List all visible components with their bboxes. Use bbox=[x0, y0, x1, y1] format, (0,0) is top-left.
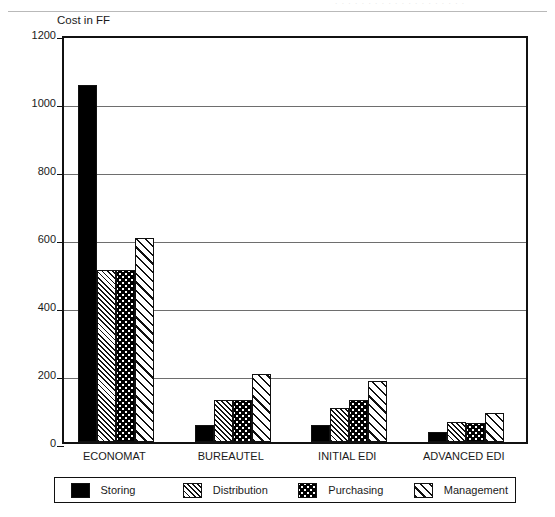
y-axis-tick-label: 0 bbox=[50, 437, 56, 449]
plot-area bbox=[62, 36, 528, 444]
legend-label: Management bbox=[444, 484, 508, 496]
bar-purchasing-bureautel bbox=[233, 400, 252, 443]
y-axis-tick-label: 600 bbox=[38, 233, 56, 245]
legend-label: Purchasing bbox=[328, 484, 383, 496]
bar-distribution-initial-edi bbox=[330, 408, 349, 442]
legend-swatch-management-icon bbox=[414, 483, 433, 498]
y-axis-tick-label: 1000 bbox=[32, 97, 56, 109]
y-axis-tick-label: 1200 bbox=[32, 29, 56, 41]
bar-distribution-economat bbox=[97, 270, 116, 442]
legend-swatch-distribution-icon bbox=[183, 483, 202, 498]
y-axis-tick bbox=[57, 446, 64, 447]
bar-chart: · · · · · · · · · · · · · · · · · · · · … bbox=[0, 0, 555, 517]
y-axis-tick bbox=[57, 174, 64, 175]
bar-distribution-bureautel bbox=[214, 400, 233, 443]
y-axis-tick-label: 200 bbox=[38, 369, 56, 381]
legend-item-purchasing[interactable]: Purchasing bbox=[298, 478, 383, 502]
bar-management-advanced-edi bbox=[485, 413, 504, 442]
x-axis-label-bureautel: BUREAUTEL bbox=[198, 450, 264, 462]
bar-management-bureautel bbox=[252, 374, 271, 442]
legend-item-management[interactable]: Management bbox=[414, 478, 508, 502]
gridline bbox=[64, 106, 526, 107]
x-axis-label-initial-edi: INITIAL EDI bbox=[318, 450, 376, 462]
bar-purchasing-initial-edi bbox=[349, 400, 368, 443]
x-axis-label-advanced-edi: ADVANCED EDI bbox=[423, 450, 505, 462]
legend-label: Storing bbox=[101, 484, 136, 496]
y-axis-tick-label: 800 bbox=[38, 165, 56, 177]
y-axis-tick bbox=[57, 378, 64, 379]
bar-storing-bureautel bbox=[195, 425, 214, 442]
legend-label: Distribution bbox=[213, 484, 268, 496]
y-axis-tick bbox=[57, 38, 64, 39]
x-axis-label-economat: ECONOMAT bbox=[83, 450, 146, 462]
legend-swatch-purchasing-icon bbox=[298, 483, 317, 498]
legend-item-storing[interactable]: Storing bbox=[71, 478, 136, 502]
bar-storing-advanced-edi bbox=[428, 432, 447, 442]
gridline bbox=[64, 174, 526, 175]
header-ghost-text: · · · · · · · · · · · · · · · · · · · · bbox=[335, 0, 550, 7]
gridline bbox=[64, 242, 526, 243]
legend-swatch-storing-icon bbox=[71, 483, 90, 498]
y-axis-tick-labels: 020040060080010001200 bbox=[22, 36, 56, 444]
bar-purchasing-economat bbox=[116, 270, 135, 442]
bar-management-initial-edi bbox=[368, 381, 387, 442]
legend-item-distribution[interactable]: Distribution bbox=[183, 478, 268, 502]
chart-legend: StoringDistributionPurchasingManagement bbox=[54, 477, 516, 503]
y-axis-tick-label: 400 bbox=[38, 301, 56, 313]
y-axis-title: Cost in FF bbox=[57, 14, 110, 26]
bar-storing-initial-edi bbox=[311, 425, 330, 442]
bar-distribution-advanced-edi bbox=[447, 422, 466, 442]
bar-storing-economat bbox=[78, 85, 97, 442]
bar-management-economat bbox=[135, 238, 154, 442]
y-axis-tick bbox=[57, 242, 64, 243]
y-axis-tick bbox=[57, 310, 64, 311]
header-rule bbox=[8, 11, 547, 12]
bar-purchasing-advanced-edi bbox=[466, 423, 485, 442]
y-axis-tick bbox=[57, 106, 64, 107]
